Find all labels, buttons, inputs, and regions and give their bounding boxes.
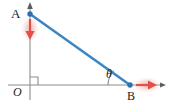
point-b-label: B	[127, 90, 135, 102]
velocity-arrow-b	[133, 77, 161, 93]
point-b-dot	[127, 82, 132, 87]
segment-ab	[30, 14, 130, 85]
figure-canvas	[0, 0, 170, 107]
geometry-figure: A O B θ	[0, 0, 170, 107]
point-a-dot	[27, 11, 32, 16]
angle-theta-label: θ	[106, 68, 112, 80]
right-angle-marker	[30, 77, 38, 85]
point-a-label: A	[11, 7, 20, 20]
y-axis-arrowhead	[27, 2, 33, 9]
origin-label: O	[13, 86, 22, 98]
